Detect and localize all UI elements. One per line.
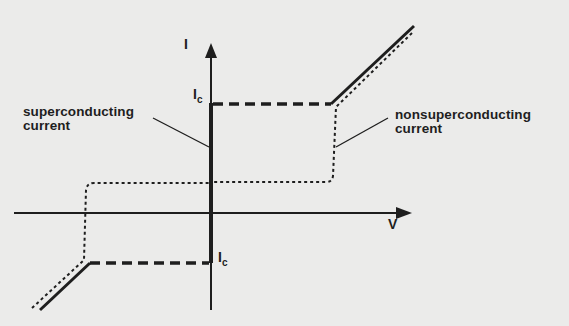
nonsuperconducting-current-label: nonsuperconducting current [395, 108, 531, 136]
label-line-1: nonsuperconducting [395, 108, 531, 122]
upper-ic-label: Ic [193, 86, 202, 102]
x-axis-arrow-icon [396, 207, 412, 219]
lower-resistive-line [40, 263, 90, 310]
nonsuperconducting-dotted-lower [32, 183, 210, 308]
label-line-2: current [395, 122, 531, 136]
label-line-2: current [23, 119, 134, 133]
upper-resistive-line [331, 26, 414, 104]
y-axis-arrow-icon [205, 43, 217, 58]
x-axis-label: V [388, 216, 397, 232]
nonsuperconducting-leader-line [336, 118, 388, 147]
lower-ic-label: Ic [218, 249, 227, 265]
superconducting-leader-line [153, 118, 209, 147]
ic-subscript: c [197, 94, 203, 105]
iv-diagram [0, 0, 569, 326]
y-axis-label: I [184, 36, 188, 52]
label-line-1: superconducting [23, 105, 134, 119]
superconducting-current-label: superconducting current [23, 105, 134, 133]
ic-subscript: c [222, 257, 228, 268]
